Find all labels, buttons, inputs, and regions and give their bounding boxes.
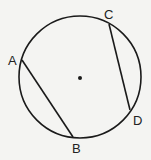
circle-diagram: A B C D [0,0,151,160]
label-b: B [72,141,81,156]
label-d: D [133,113,142,128]
label-c: C [104,7,113,22]
chord-ab [22,60,73,137]
center-point [78,76,82,80]
label-a: A [8,53,17,68]
